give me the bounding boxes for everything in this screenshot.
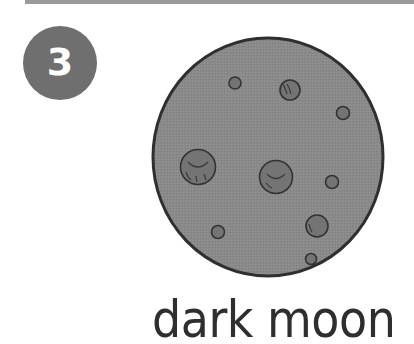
top-divider [25,0,414,4]
step-number: 3 [47,43,73,81]
step-number-badge: 3 [23,26,97,100]
caption-label: dark moon [152,288,392,344]
moon-icon [150,35,386,280]
